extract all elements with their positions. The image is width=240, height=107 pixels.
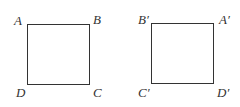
diagram-canvas: A B D C B′ A′ C′ D′ <box>0 0 240 107</box>
label-a-prime: A′ <box>219 13 230 26</box>
label-b-prime: B′ <box>138 13 149 26</box>
label-c-prime: C′ <box>138 86 150 99</box>
label-d: D <box>16 86 25 99</box>
label-d-prime: D′ <box>217 86 229 99</box>
label-b: B <box>93 13 101 26</box>
square-abcd <box>27 24 90 85</box>
square-b-a-d-c-prime <box>151 23 214 84</box>
label-a: A <box>14 14 22 27</box>
label-c: C <box>93 86 102 99</box>
